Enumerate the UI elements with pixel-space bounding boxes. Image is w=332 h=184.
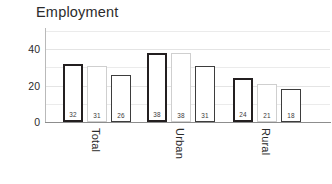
bar-value-label: 38 <box>149 112 165 118</box>
bar-value-label: 31 <box>88 113 106 119</box>
y-axis-tick-label: 40 <box>6 43 40 55</box>
x-axis-line <box>45 122 331 123</box>
y-axis-tick-label: 20 <box>6 80 40 92</box>
chart-title: Employment <box>36 4 119 20</box>
bar: 38 <box>171 53 191 122</box>
bar-value-label: 31 <box>196 113 214 119</box>
plot-area: 323126383831242118 <box>46 31 330 122</box>
bar-value-label: 21 <box>258 113 276 119</box>
bar: 26 <box>111 75 131 122</box>
bar-value-label: 26 <box>112 113 130 119</box>
bar: 31 <box>195 66 215 122</box>
bar: 32 <box>63 64 83 122</box>
bar-value-label: 32 <box>65 112 81 118</box>
bar: 18 <box>281 89 301 122</box>
y-axis-tick-labels: 02040 <box>0 0 40 184</box>
y-axis-tick-label: 0 <box>6 116 40 128</box>
x-axis-category-label: Urban <box>174 128 186 159</box>
gridline <box>46 31 330 32</box>
bar-value-label: 24 <box>235 112 251 118</box>
bar-value-label: 18 <box>282 113 300 119</box>
bar: 21 <box>257 84 277 122</box>
employment-bar-chart: Employment 02040 323126383831242118 Tota… <box>0 0 332 184</box>
bar-value-label: 38 <box>172 113 190 119</box>
y-axis-spine <box>45 28 46 123</box>
x-axis-category-label: Rural <box>260 128 272 155</box>
bar: 24 <box>233 78 253 122</box>
bar: 31 <box>87 66 107 122</box>
x-axis-category-label: Total <box>90 128 102 152</box>
gridline <box>46 49 330 50</box>
bar: 38 <box>147 53 167 122</box>
